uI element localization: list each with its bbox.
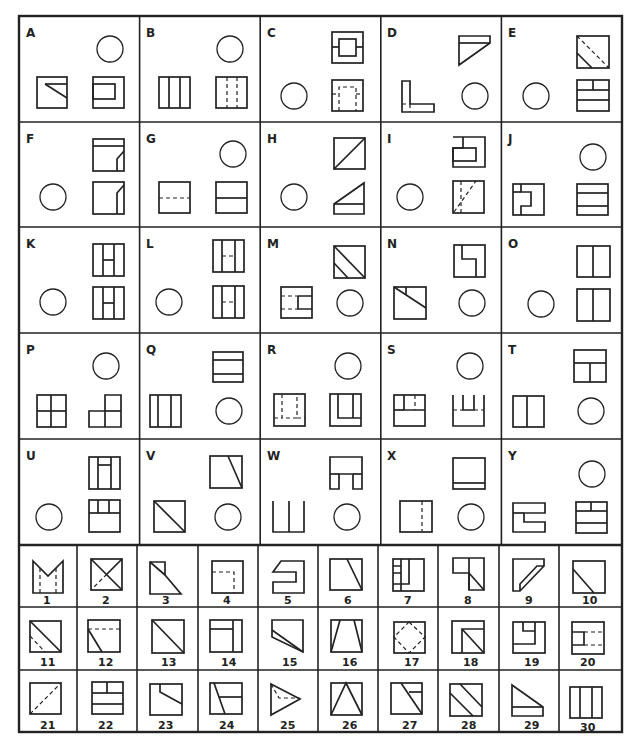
answer-2[interactable]: 2 bbox=[91, 559, 122, 607]
answer-3[interactable]: 3 bbox=[150, 562, 181, 607]
view-top bbox=[454, 245, 485, 277]
missing-view-circle[interactable] bbox=[215, 504, 241, 530]
answer-8[interactable]: 8 bbox=[453, 558, 484, 607]
missing-view-circle[interactable] bbox=[458, 504, 484, 530]
answer-number: 17 bbox=[404, 656, 419, 669]
grid-lines bbox=[19, 16, 622, 732]
answer-number: 5 bbox=[284, 594, 292, 607]
label-V: V bbox=[146, 449, 156, 463]
label-C: C bbox=[267, 26, 276, 40]
problem-J bbox=[513, 144, 608, 215]
label-N: N bbox=[387, 237, 397, 251]
view-side bbox=[213, 286, 244, 318]
answer-1[interactable]: 1 bbox=[33, 561, 63, 607]
label-W: W bbox=[267, 449, 280, 463]
missing-view-circle[interactable] bbox=[457, 353, 483, 379]
answer-number: 6 bbox=[344, 594, 352, 607]
answer-13[interactable]: 13 bbox=[152, 620, 184, 669]
missing-view-circle[interactable] bbox=[281, 184, 307, 210]
answer-number: 28 bbox=[461, 719, 476, 732]
label-M: M bbox=[267, 237, 279, 251]
view-front bbox=[513, 184, 544, 215]
missing-view-circle[interactable] bbox=[40, 184, 66, 210]
answer-15[interactable]: 15 bbox=[272, 620, 303, 669]
answer-25[interactable]: 25 bbox=[271, 684, 300, 732]
missing-view-circle[interactable] bbox=[523, 83, 549, 109]
missing-view-circle[interactable] bbox=[217, 36, 243, 62]
missing-view-circle[interactable] bbox=[220, 141, 246, 167]
problem-K bbox=[40, 244, 124, 319]
missing-view-circle[interactable] bbox=[93, 353, 119, 379]
answer-23[interactable]: 23 bbox=[150, 684, 182, 732]
answer-19[interactable]: 19 bbox=[513, 622, 545, 669]
answer-28[interactable]: 28 bbox=[450, 684, 482, 732]
answer-29[interactable]: 29 bbox=[512, 685, 543, 732]
missing-view-circle[interactable] bbox=[335, 353, 361, 379]
view-side bbox=[89, 500, 120, 532]
problem-R bbox=[274, 353, 361, 426]
answer-number: 14 bbox=[221, 656, 237, 669]
view-side bbox=[577, 289, 610, 321]
answer-number: 29 bbox=[524, 719, 539, 732]
missing-view-circle[interactable] bbox=[578, 398, 604, 424]
label-L: L bbox=[146, 237, 154, 251]
missing-view-circle[interactable] bbox=[528, 291, 554, 317]
missing-view-circle[interactable] bbox=[281, 83, 307, 109]
answer-17[interactable]: 17 bbox=[394, 622, 425, 669]
answer-number: 10 bbox=[582, 594, 598, 607]
view-side bbox=[453, 395, 484, 426]
label-X: X bbox=[387, 449, 397, 463]
problem-O bbox=[528, 246, 610, 321]
problem-L bbox=[156, 240, 244, 318]
missing-view-circle[interactable] bbox=[156, 289, 182, 315]
view-top bbox=[334, 138, 365, 169]
missing-view-circle[interactable] bbox=[216, 398, 242, 424]
answer-7[interactable]: 7 bbox=[393, 559, 424, 607]
problem-Q bbox=[150, 352, 243, 427]
missing-view-circle[interactable] bbox=[462, 83, 488, 109]
missing-view-circle[interactable] bbox=[334, 504, 360, 530]
answer-4[interactable]: 4 bbox=[212, 561, 243, 607]
answer-5[interactable]: 5 bbox=[273, 561, 304, 607]
answer-16[interactable]: 16 bbox=[331, 620, 362, 669]
view-front bbox=[400, 501, 432, 532]
label-A: A bbox=[26, 26, 36, 40]
label-P: P bbox=[26, 343, 35, 357]
answer-number: 24 bbox=[219, 719, 235, 732]
label-Y: Y bbox=[507, 449, 517, 463]
answer-18[interactable]: 18 bbox=[452, 621, 484, 669]
problem-B bbox=[159, 36, 247, 108]
view-front bbox=[273, 501, 304, 532]
missing-view-circle[interactable] bbox=[40, 289, 66, 315]
answer-number: 1 bbox=[43, 594, 51, 607]
view-side bbox=[330, 394, 361, 426]
answer-10[interactable]: 10 bbox=[573, 561, 605, 607]
missing-view-circle[interactable] bbox=[97, 36, 123, 62]
view-side bbox=[577, 184, 608, 215]
view-top bbox=[577, 246, 610, 277]
missing-view-circle[interactable] bbox=[397, 184, 423, 210]
answer-12[interactable]: 12 bbox=[88, 620, 120, 669]
answer-24[interactable]: 24 bbox=[210, 683, 242, 732]
answer-6[interactable]: 6 bbox=[330, 559, 362, 607]
answer-number: 7 bbox=[404, 594, 412, 607]
answer-20[interactable]: 20 bbox=[572, 622, 604, 669]
answer-30[interactable]: 30 bbox=[570, 687, 602, 734]
missing-view-circle[interactable] bbox=[36, 504, 62, 530]
answer-22[interactable]: 22 bbox=[92, 682, 123, 732]
missing-view-circle[interactable] bbox=[579, 461, 605, 487]
answer-27[interactable]: 27 bbox=[391, 683, 422, 732]
answer-number: 30 bbox=[580, 721, 596, 734]
missing-view-circle[interactable] bbox=[337, 290, 363, 316]
label-G: G bbox=[146, 132, 156, 146]
problem-W bbox=[273, 457, 362, 532]
answer-number: 13 bbox=[161, 656, 176, 669]
answer-9[interactable]: 9 bbox=[513, 559, 544, 607]
missing-view-circle[interactable] bbox=[459, 290, 485, 316]
answer-26[interactable]: 26 bbox=[331, 683, 362, 732]
answer-21[interactable]: 21 bbox=[30, 683, 61, 732]
answer-11[interactable]: 11 bbox=[30, 621, 61, 669]
missing-view-circle[interactable] bbox=[580, 144, 606, 170]
answer-14[interactable]: 14 bbox=[210, 620, 242, 669]
view-side bbox=[577, 80, 609, 111]
